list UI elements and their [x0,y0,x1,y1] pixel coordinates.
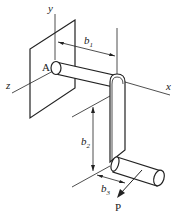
crank-diagram: y z x A b1 b2 b3 P [0,0,177,217]
force-p-label: P [115,202,121,213]
b3-label: b3 [101,183,110,197]
diagram-drawing [0,0,177,217]
b2-label: b2 [81,136,90,150]
y-axis-label: y [48,3,53,14]
x-axis-label: x [166,81,171,92]
x-axis [125,82,170,95]
b1-label: b1 [84,35,93,49]
point-a-label: A [42,62,50,73]
z-axis-label: z [6,80,10,91]
